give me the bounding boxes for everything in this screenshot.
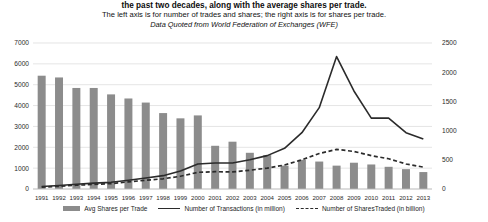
bar-avg-shares-per-trade — [385, 167, 393, 189]
x-axis-year-label: 1998 — [156, 194, 170, 201]
bar-avg-shares-per-trade — [90, 88, 98, 189]
bar-avg-shares-per-trade — [142, 103, 150, 189]
x-axis-year-label: 2007 — [312, 194, 326, 201]
legend-dashed-swatch-icon — [296, 208, 318, 209]
x-axis-year-label: 2013 — [417, 194, 431, 201]
x-axis-year-label: 1993 — [70, 194, 84, 201]
x-axis-year-label: 1995 — [104, 194, 118, 201]
x-axis-year-label: 2002 — [226, 194, 240, 201]
x-axis-year-label: 2001 — [208, 194, 222, 201]
bar-avg-shares-per-trade — [350, 163, 358, 189]
legend-bar-swatch-icon — [63, 206, 80, 211]
x-axis-year-label: 2005 — [278, 194, 292, 201]
right-axis-tick-label: 1500 — [442, 98, 457, 105]
right-axis-tick-label: 1000 — [442, 127, 457, 134]
bar-avg-shares-per-trade — [263, 155, 271, 189]
chart-page: the past two decades, along with the ave… — [0, 0, 488, 222]
bar-avg-shares-per-trade — [55, 77, 63, 189]
x-axis-year-label: 2006 — [295, 194, 309, 201]
left-axis-tick-label: 0 — [25, 185, 29, 192]
x-axis-year-label: 2008 — [330, 194, 344, 201]
x-axis-year-label: 1994 — [87, 194, 101, 201]
left-axis-tick-label: 4000 — [14, 102, 29, 109]
bar-avg-shares-per-trade — [211, 146, 219, 189]
x-axis-year-label: 1997 — [139, 194, 153, 201]
bar-avg-shares-per-trade — [419, 172, 427, 189]
bar-avg-shares-per-trade — [333, 166, 341, 189]
chart-plot-area: 0100020003000400050006000700005001000150… — [0, 0, 488, 222]
left-axis-tick-label: 5000 — [14, 81, 29, 88]
bar-avg-shares-per-trade — [315, 162, 323, 189]
bar-avg-shares-per-trade — [194, 115, 202, 189]
left-axis-tick-label: 2000 — [14, 144, 29, 151]
x-axis-year-label: 2010 — [365, 194, 379, 201]
left-axis-tick-label: 7000 — [14, 39, 29, 46]
chart-legend: Avg Shares per Trade Number of Transacti… — [0, 205, 488, 212]
legend-label-number-of-shares-traded: Number of SharesTraded (in billion) — [322, 205, 425, 212]
legend-label-avg-shares-per-trade: Avg Shares per Trade — [84, 205, 147, 212]
legend-item-number-of-shares-traded[interactable]: Number of SharesTraded (in billion) — [296, 205, 425, 212]
left-axis-tick-label: 3000 — [14, 123, 29, 130]
x-axis-year-label: 2000 — [191, 194, 205, 201]
x-axis-year-label: 1999 — [174, 194, 188, 201]
bar-avg-shares-per-trade — [402, 169, 410, 189]
bar-avg-shares-per-trade — [176, 118, 184, 189]
legend-line-swatch-icon — [158, 208, 180, 209]
right-axis-tick-label: 2500 — [442, 39, 457, 46]
bar-avg-shares-per-trade — [72, 88, 80, 189]
right-axis-tick-label: 0 — [442, 185, 446, 192]
bar-avg-shares-per-trade — [367, 164, 375, 189]
x-axis-year-label: 1992 — [52, 194, 66, 201]
right-axis-tick-label: 2000 — [442, 69, 457, 76]
bar-avg-shares-per-trade — [159, 113, 167, 189]
bar-avg-shares-per-trade — [229, 142, 237, 189]
x-axis-year-label: 1991 — [35, 194, 49, 201]
chart-svg: 0100020003000400050006000700005001000150… — [0, 0, 488, 222]
bar-avg-shares-per-trade — [124, 98, 132, 189]
legend-item-number-of-transactions[interactable]: Number of Transactions (in million) — [158, 205, 284, 212]
x-axis-year-label: 2003 — [243, 194, 257, 201]
x-axis-year-label: 2009 — [347, 194, 361, 201]
left-axis-tick-label: 1000 — [14, 165, 29, 172]
bar-avg-shares-per-trade — [107, 94, 115, 189]
left-axis-tick-label: 6000 — [14, 60, 29, 67]
right-axis-tick-label: 500 — [442, 156, 453, 163]
x-axis-year-label: 2012 — [399, 194, 413, 201]
legend-item-avg-shares-per-trade[interactable]: Avg Shares per Trade — [63, 205, 147, 212]
x-axis-year-label: 1996 — [122, 194, 136, 201]
x-axis-year-label: 2011 — [382, 194, 396, 201]
bar-avg-shares-per-trade — [298, 160, 306, 189]
bar-avg-shares-per-trade — [38, 76, 46, 189]
bar-avg-shares-per-trade — [281, 166, 289, 189]
x-axis-year-label: 2004 — [260, 194, 274, 201]
legend-label-number-of-transactions: Number of Transactions (in million) — [184, 205, 284, 212]
